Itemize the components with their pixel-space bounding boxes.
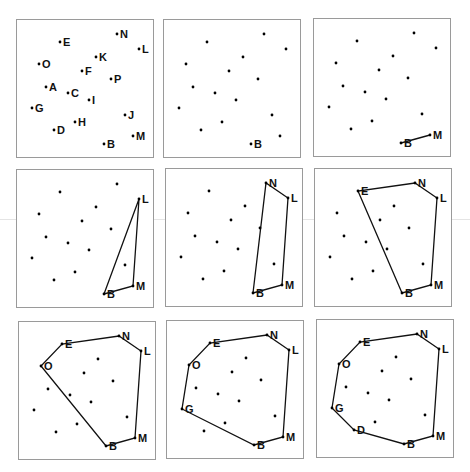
point-J <box>124 114 127 117</box>
point-H <box>374 421 377 424</box>
point-G <box>31 107 34 110</box>
point-label-L: L <box>291 192 298 204</box>
point-D <box>53 129 56 132</box>
point-H <box>224 422 227 425</box>
point-label-P: P <box>114 73 121 85</box>
point-L <box>285 48 288 51</box>
point-E <box>59 41 62 44</box>
point-label-B: B <box>256 287 264 299</box>
point-F <box>381 370 384 373</box>
point-label-O: O <box>44 360 53 372</box>
point-label-M: M <box>138 432 147 444</box>
point-label-L: L <box>142 43 149 55</box>
point-C <box>365 241 368 244</box>
point-D <box>55 431 58 434</box>
hull-edges <box>41 336 141 446</box>
point-E <box>208 190 211 193</box>
point-B <box>103 293 106 296</box>
point-label-E: E <box>363 336 370 348</box>
point-B <box>105 445 108 448</box>
point-C <box>69 394 72 397</box>
point-P <box>110 78 113 81</box>
point-G <box>329 256 332 259</box>
point-label-B: B <box>107 288 115 300</box>
point-B <box>403 443 406 446</box>
point-I <box>237 248 240 251</box>
point-F <box>81 70 84 73</box>
point-G <box>178 107 181 110</box>
point-plot: NLEKOFPACIGJHDMB <box>17 20 155 159</box>
hull-edges <box>332 334 439 444</box>
point-J <box>421 113 424 116</box>
point-N <box>116 33 119 36</box>
point-label-L: L <box>442 343 449 355</box>
point-C <box>216 241 219 244</box>
point-L <box>287 197 290 200</box>
point-D <box>202 278 205 281</box>
point-label-M: M <box>285 279 294 291</box>
point-F <box>379 219 382 222</box>
point-B <box>252 292 255 295</box>
point-label-I: I <box>92 94 95 106</box>
point-G <box>181 408 184 411</box>
step-panel-6: NLEMB <box>314 168 452 307</box>
point-G <box>328 106 331 109</box>
point-A <box>45 236 48 239</box>
point-E <box>357 190 360 193</box>
point-N <box>416 333 419 336</box>
point-B <box>401 292 404 295</box>
point-J <box>273 263 276 266</box>
point-label-E: E <box>361 185 368 197</box>
point-label-M: M <box>136 280 145 292</box>
point-K <box>395 356 398 359</box>
point-plot: MB <box>314 19 452 158</box>
hull-edges <box>253 183 288 293</box>
point-J <box>271 114 274 117</box>
point-I <box>90 401 93 404</box>
point-plot: NLEMB <box>315 169 453 308</box>
point-K <box>244 205 247 208</box>
point-N <box>266 334 269 337</box>
point-L <box>140 350 143 353</box>
point-P <box>407 77 410 80</box>
hull-edges <box>182 335 289 445</box>
point-E <box>59 191 62 194</box>
point-J <box>126 416 129 419</box>
point-K <box>392 55 395 58</box>
point-label-N: N <box>420 328 428 340</box>
point-O <box>40 365 43 368</box>
point-D <box>203 430 206 433</box>
point-K <box>245 357 248 360</box>
point-A <box>45 86 48 89</box>
point-H <box>372 270 375 273</box>
point-label-C: C <box>71 87 79 99</box>
point-F <box>228 70 231 73</box>
point-A <box>342 85 345 88</box>
point-A <box>343 235 346 238</box>
point-label-E: E <box>65 338 72 350</box>
point-M <box>429 134 432 137</box>
point-label-B: B <box>109 440 117 452</box>
point-P <box>260 379 263 382</box>
point-C <box>217 393 220 396</box>
point-F <box>378 69 381 72</box>
point-label-L: L <box>292 344 299 356</box>
point-E <box>209 342 212 345</box>
step-panel-8: NLEOGMB <box>166 320 304 459</box>
point-H <box>221 121 224 124</box>
point-M <box>134 437 137 440</box>
point-label-K: K <box>99 51 107 63</box>
point-D <box>53 279 56 282</box>
point-label-O: O <box>42 58 51 70</box>
point-label-D: D <box>357 424 365 436</box>
point-M <box>281 284 284 287</box>
step-panel-5: NLMB <box>165 168 303 307</box>
point-M <box>430 284 433 287</box>
point-label-E: E <box>63 36 70 48</box>
point-A <box>192 86 195 89</box>
point-M <box>282 436 285 439</box>
point-M <box>132 285 135 288</box>
point-label-G: G <box>335 402 344 414</box>
point-label-L: L <box>142 193 149 205</box>
point-L <box>436 197 439 200</box>
